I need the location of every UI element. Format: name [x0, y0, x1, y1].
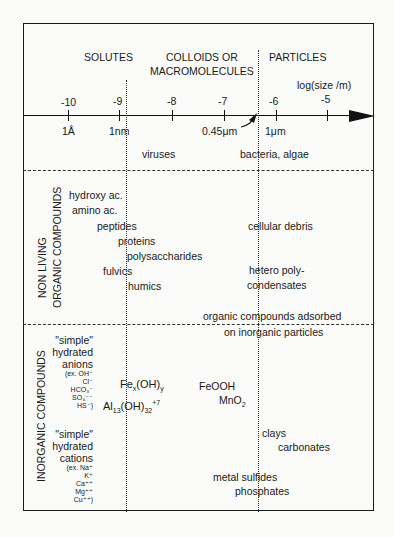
axis-tick	[224, 110, 225, 121]
cations-title-1: "simple"	[52, 428, 93, 440]
organic-polysaccharides: polysaccharides	[127, 250, 202, 262]
inorganic-phosphates: phosphates	[235, 485, 289, 497]
organic-adsorbed-line2: on inorganic particles	[224, 326, 323, 338]
section-divider-organic	[23, 170, 374, 171]
cations-group: "simple" hydrated cations (ex. Na⁺ K⁺ Ca…	[52, 428, 93, 504]
size-label-um: 1μm	[265, 125, 286, 137]
organic-adsorbed-line1: organic compounds adsorbed	[203, 310, 341, 322]
category-colloids: COLLOIDS OR	[166, 51, 238, 63]
cations-title-3: cations	[52, 452, 93, 464]
log-size-axis	[23, 115, 363, 116]
organic-amino-acids: amino ac.	[72, 204, 118, 216]
anions-title-1: "simple"	[52, 334, 93, 346]
cation-example: K⁺	[52, 472, 93, 480]
inorganic-metal-sulfides: metal sulfides	[213, 471, 277, 483]
formula-aluminum-polycation: Al13(OH)32+7	[103, 400, 160, 412]
inorganic-clays: clays	[262, 427, 286, 439]
tick-label-neg10: -10	[61, 96, 76, 108]
organic-hydroxy-acids: hydroxy ac.	[69, 189, 123, 201]
anion-example: HS⁻)	[52, 402, 93, 410]
organic-fulvics: fulvics	[103, 265, 132, 277]
organic-peptides: peptides	[97, 220, 137, 232]
tick-label-neg7: -7	[218, 95, 227, 107]
cation-example: Ca⁺⁺	[52, 480, 93, 488]
axis-label: log(size /m)	[297, 79, 351, 91]
category-solutes: SOLUTES	[84, 51, 133, 63]
inorganic-feooh: FeOOH	[199, 380, 235, 392]
formula-iron-hydroxide: Fex(OH)y	[120, 378, 164, 390]
cation-example: (ex. Na⁺	[52, 464, 93, 472]
organic-hetero-poly: hetero poly-	[249, 264, 304, 276]
tick-label-neg5: -5	[321, 93, 330, 105]
pointer-arrow-icon	[240, 112, 260, 132]
cation-example: Mg⁺⁺	[52, 488, 93, 496]
anion-example: Cl⁻	[52, 378, 93, 386]
boundary-line-1nm	[126, 80, 127, 512]
cations-title-2: hydrated	[52, 440, 93, 452]
axis-arrow-icon	[349, 110, 375, 122]
tick-label-neg9: -9	[113, 95, 122, 107]
organic-condensates: condensates	[247, 279, 307, 291]
axis-tick	[119, 110, 120, 121]
cation-example: Cu⁺⁺)	[52, 496, 93, 504]
anions-title-2: hydrated	[52, 346, 93, 358]
category-particles: PARTICLES	[269, 51, 326, 63]
axis-tick	[276, 110, 277, 121]
organic-cellular-debris: cellular debris	[248, 220, 313, 232]
section-label-organic-compounds: ORGANIC COMPOUNDS	[51, 187, 63, 308]
anion-example: HCO₃⁻	[52, 386, 93, 394]
category-macromolecules: MACROMOLECULES	[150, 65, 254, 77]
section-label-inorganic-compounds: INORGANIC COMPOUNDS	[35, 350, 47, 482]
organic-humics: humics	[128, 280, 161, 292]
section-divider-inorganic	[23, 324, 374, 325]
axis-tick	[327, 110, 328, 121]
anion-example: (ex. OH⁻	[52, 370, 93, 378]
tick-label-neg6: -6	[269, 95, 278, 107]
size-label-045um: 0.45μm	[202, 125, 237, 137]
anions-group: "simple" hydrated anions (ex. OH⁻ Cl⁻ HC…	[52, 334, 93, 410]
organic-proteins: proteins	[118, 235, 155, 247]
axis-tick	[172, 110, 173, 121]
size-label-angstrom: 1Å	[62, 125, 75, 137]
anion-example: SO₄⁻⁻	[52, 394, 93, 402]
axis-tick	[68, 110, 69, 121]
label-bacteria-algae: bacteria, algae	[240, 148, 309, 160]
tick-label-neg8: -8	[167, 95, 176, 107]
anions-title-3: anions	[52, 358, 93, 370]
inorganic-carbonates: carbonates	[278, 441, 330, 453]
inorganic-mno2: MnO2	[219, 394, 246, 406]
section-label-non-living: NON LIVING	[36, 237, 48, 298]
label-viruses: viruses	[142, 148, 175, 160]
